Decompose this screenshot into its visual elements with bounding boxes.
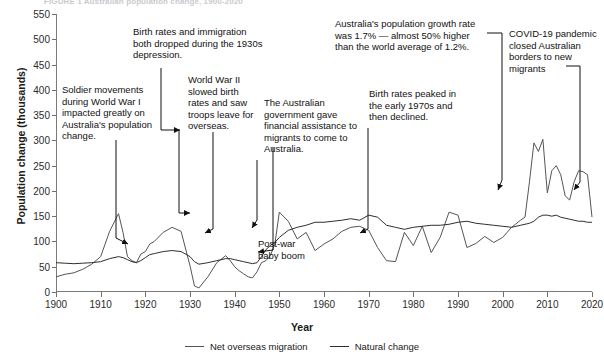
x-tick-mark xyxy=(503,292,504,297)
figure-title: FIGURE 1 Australian population change, 1… xyxy=(44,0,243,6)
x-tick-label: 1900 xyxy=(45,299,67,310)
y-tick-label: 350 xyxy=(33,110,50,121)
y-tick-label: 150 xyxy=(33,211,50,222)
legend-label-net-overseas-migration: Net overseas migration xyxy=(210,341,308,352)
x-tick-label: 1980 xyxy=(402,299,424,310)
chart-legend: Net overseas migration Natural change xyxy=(0,341,604,352)
line-natural-change xyxy=(56,215,592,264)
x-tick-mark xyxy=(235,292,236,297)
x-tick-label: 1960 xyxy=(313,299,335,310)
legend-swatch-net-overseas-migration xyxy=(185,346,204,347)
y-tick-label: 400 xyxy=(33,84,50,95)
x-tick-label: 1940 xyxy=(224,299,246,310)
line-net-overseas-migration xyxy=(56,139,592,288)
y-tick-label: 450 xyxy=(33,59,50,70)
annotation-growth-rate: Australia's population growth rate was 1… xyxy=(335,18,487,53)
y-tick-label: 200 xyxy=(33,185,50,196)
y-axis-title: Population change (thousands) xyxy=(15,31,27,261)
x-tick-label: 1930 xyxy=(179,299,201,310)
x-tick-mark xyxy=(279,292,280,297)
x-tick-label: 1920 xyxy=(134,299,156,310)
legend-item-net-overseas-migration: Net overseas migration xyxy=(185,341,308,352)
x-tick-mark xyxy=(101,292,102,297)
x-tick-mark xyxy=(369,292,370,297)
annotation-ww1: Soldier movements during World War I imp… xyxy=(62,84,170,142)
x-axis-title: Year xyxy=(0,321,604,333)
legend-label-natural-change: Natural change xyxy=(355,341,419,352)
y-tick-label: 0 xyxy=(44,287,50,298)
y-tick-label: 100 xyxy=(33,236,50,247)
y-tick-label: 500 xyxy=(33,34,50,45)
x-tick-mark xyxy=(190,292,191,297)
y-tick-label: 50 xyxy=(39,261,50,272)
x-tick-mark xyxy=(145,292,146,297)
x-tick-mark xyxy=(547,292,548,297)
x-tick-mark xyxy=(324,292,325,297)
x-tick-mark xyxy=(458,292,459,297)
x-tick-label: 1950 xyxy=(268,299,290,310)
x-tick-label: 1970 xyxy=(358,299,380,310)
x-tick-label: 2020 xyxy=(581,299,603,310)
legend-swatch-natural-change xyxy=(330,346,349,347)
annotation-covid: COVID-19 pandemic closed Australian bord… xyxy=(509,28,597,74)
x-tick-label: 2000 xyxy=(492,299,514,310)
annotation-birth-peak: Birth rates peaked in the early 1970s an… xyxy=(369,88,471,123)
x-tick-mark xyxy=(56,292,57,297)
x-tick-mark xyxy=(592,292,593,297)
legend-item-natural-change: Natural change xyxy=(330,341,419,352)
x-tick-mark xyxy=(413,292,414,297)
chart-figure: FIGURE 1 Australian population change, 1… xyxy=(0,0,604,362)
y-tick-label: 250 xyxy=(33,160,50,171)
annotation-ww2: World War II slowed birth rates and saw … xyxy=(188,74,256,132)
annotation-baby-boom: Post-war baby boom xyxy=(258,238,318,261)
x-tick-label: 2010 xyxy=(536,299,558,310)
y-tick-label: 550 xyxy=(33,9,50,20)
x-tick-label: 1990 xyxy=(447,299,469,310)
annotation-assisted-migration: The Australian government gave financial… xyxy=(264,97,364,155)
y-tick-label: 300 xyxy=(33,135,50,146)
x-tick-label: 1910 xyxy=(90,299,112,310)
annotation-depression: Birth rates and immigration both dropped… xyxy=(133,26,265,61)
